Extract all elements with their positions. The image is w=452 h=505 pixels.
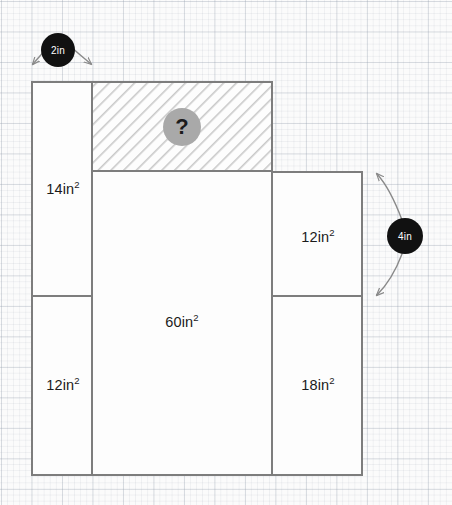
figure-svg <box>0 0 452 505</box>
area-label-exponent: 2 <box>74 375 79 386</box>
area-label-text: 18in <box>301 377 329 393</box>
area-label-right-upper: 12in2 <box>301 229 335 245</box>
area-label-right-lower: 18in2 <box>301 377 335 393</box>
area-label-exponent: 2 <box>329 227 334 238</box>
area-label-text: 14in <box>46 181 74 197</box>
area-label-exponent: 2 <box>329 375 334 386</box>
area-label-bottom-left: 12in2 <box>46 377 80 393</box>
area-label-center: 60in2 <box>165 314 199 330</box>
area-label-exponent: 2 <box>193 312 198 323</box>
area-label-text: 12in <box>301 229 329 245</box>
dimension-badge-4in: 4in <box>387 218 423 254</box>
area-label-text: 60in <box>165 314 193 330</box>
dimension-badge-2in: 2in <box>41 33 75 67</box>
right-callout-arrow-up <box>377 174 402 220</box>
area-label-top-left: 14in2 <box>46 181 80 197</box>
right-callout-arrow-down <box>377 254 402 295</box>
area-label-text: 12in <box>46 377 74 393</box>
question-mark-marker: ? <box>163 108 201 146</box>
area-label-exponent: 2 <box>74 179 79 190</box>
geometry-diagram-canvas: 14in2 60in2 12in2 12in2 18in2 ? 2in 4in <box>0 0 452 505</box>
